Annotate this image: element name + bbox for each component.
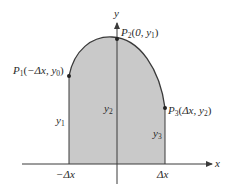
point-p1-label: P1(−Δx, y0) bbox=[12, 64, 64, 78]
point-p2 bbox=[115, 37, 119, 41]
point-p2-label: P2(0, y1) bbox=[120, 26, 159, 40]
height-label-y1: y1 bbox=[55, 114, 65, 128]
y-axis-label: y bbox=[113, 7, 119, 19]
point-p3 bbox=[163, 106, 167, 110]
x-axis-label: x bbox=[214, 157, 220, 169]
diagram-canvas: x y P1(−Δx, y0) P2(0, y1) P3(Δx, y2) y1 … bbox=[0, 0, 226, 189]
tick-label-neg-dx: −Δx bbox=[56, 168, 75, 180]
point-p1 bbox=[67, 74, 71, 78]
point-p3-label: P3(Δx, y2) bbox=[167, 104, 212, 118]
tick-label-pos-dx: Δx bbox=[156, 168, 168, 180]
